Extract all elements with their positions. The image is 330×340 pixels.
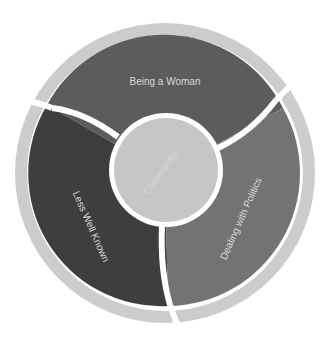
label-being-a-woman: Being a Woman xyxy=(130,76,201,87)
community-ring-diagram: Being a Woman Less Well Known Dealing wi… xyxy=(0,0,330,340)
diagram-canvas: Being a Woman Less Well Known Dealing wi… xyxy=(0,0,330,340)
